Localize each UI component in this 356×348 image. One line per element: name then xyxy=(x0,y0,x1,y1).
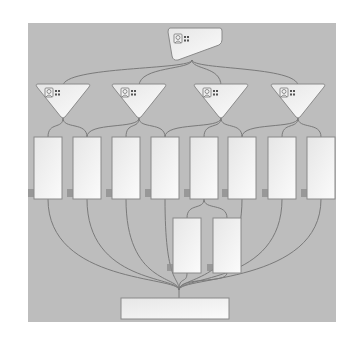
nodes xyxy=(34,28,335,319)
edge xyxy=(204,199,227,218)
edge xyxy=(298,118,321,137)
edge xyxy=(48,118,63,137)
diagram-canvas xyxy=(0,0,356,348)
item-node-1[interactable] xyxy=(34,137,62,199)
sink-node[interactable] xyxy=(121,298,229,319)
edge xyxy=(221,118,242,137)
item-node-8[interactable] xyxy=(307,137,335,199)
edge xyxy=(282,118,298,137)
edge xyxy=(204,118,221,137)
root-node[interactable] xyxy=(168,28,222,60)
diagram-svg xyxy=(0,0,356,348)
edge xyxy=(192,60,298,86)
edge xyxy=(139,118,165,137)
item-node-6[interactable] xyxy=(228,137,256,199)
item-node-5[interactable] xyxy=(190,137,218,199)
item-node-2[interactable] xyxy=(73,137,101,199)
manager-node-3[interactable] xyxy=(194,84,248,118)
manager-node-2[interactable] xyxy=(112,84,166,118)
item-node-7[interactable] xyxy=(268,137,296,199)
sub-item-node-1[interactable] xyxy=(173,218,201,273)
item-node-4[interactable] xyxy=(151,137,179,199)
edge xyxy=(192,60,221,86)
manager-node-1[interactable] xyxy=(36,84,90,118)
sub-item-node-2[interactable] xyxy=(213,218,241,273)
edge xyxy=(63,118,87,137)
edge xyxy=(242,118,298,137)
edge xyxy=(187,199,204,218)
edge xyxy=(87,118,139,137)
edge xyxy=(165,118,221,137)
manager-node-4[interactable] xyxy=(271,84,325,118)
item-node-3[interactable] xyxy=(112,137,140,199)
edge xyxy=(63,60,192,86)
